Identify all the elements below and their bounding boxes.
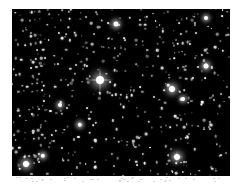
faint-star xyxy=(43,63,44,64)
faint-star xyxy=(34,11,35,12)
faint-star xyxy=(181,42,184,45)
faint-star xyxy=(149,147,151,149)
caption-fragment xyxy=(50,179,52,180)
caption-fragment xyxy=(19,177,21,178)
faint-star xyxy=(13,68,14,69)
caption-fragment xyxy=(82,181,84,182)
faint-star xyxy=(146,66,147,67)
faint-star xyxy=(103,46,104,47)
faint-star xyxy=(90,22,93,25)
faint-star xyxy=(189,41,190,42)
caption-fragment xyxy=(31,178,33,179)
faint-star xyxy=(163,89,165,91)
faint-star xyxy=(60,79,62,81)
faint-star xyxy=(219,155,221,157)
faint-star xyxy=(181,51,183,53)
faint-star xyxy=(12,83,13,85)
faint-star xyxy=(111,153,113,155)
faint-star xyxy=(25,120,27,122)
faint-star xyxy=(142,40,144,42)
faint-star xyxy=(176,20,177,21)
faint-star xyxy=(116,60,118,62)
faint-star xyxy=(223,80,225,82)
faint-star xyxy=(37,129,40,132)
faint-star xyxy=(130,94,133,97)
faint-star xyxy=(18,147,20,149)
faint-star xyxy=(126,144,128,146)
faint-star xyxy=(20,14,21,15)
faint-star xyxy=(105,140,106,141)
faint-star xyxy=(39,41,42,44)
faint-star xyxy=(193,16,195,18)
faint-star xyxy=(189,43,191,45)
diffraction-spike xyxy=(206,62,207,70)
faint-star xyxy=(24,44,26,46)
faint-star xyxy=(124,48,126,50)
faint-star xyxy=(142,74,144,76)
faint-star xyxy=(213,95,214,96)
faint-star xyxy=(135,160,138,163)
faint-star xyxy=(31,67,33,69)
faint-star xyxy=(30,43,32,45)
faint-star xyxy=(191,112,192,113)
faint-star xyxy=(137,115,139,117)
faint-star xyxy=(70,82,73,85)
faint-star xyxy=(135,39,138,42)
faint-star xyxy=(31,91,32,92)
faint-star xyxy=(168,159,171,162)
faint-star xyxy=(125,71,126,72)
faint-star xyxy=(110,23,111,24)
caption-fragment xyxy=(64,178,66,179)
faint-star xyxy=(186,123,188,125)
faint-star xyxy=(216,144,217,145)
faint-star xyxy=(159,24,161,26)
faint-star xyxy=(204,78,206,80)
faint-star xyxy=(187,97,190,100)
faint-star xyxy=(174,52,176,54)
faint-star xyxy=(159,99,160,100)
faint-star xyxy=(176,125,177,126)
faint-star xyxy=(210,124,213,127)
faint-star xyxy=(211,28,213,30)
faint-star xyxy=(36,49,38,51)
faint-star xyxy=(57,63,59,65)
faint-star xyxy=(78,53,79,54)
caption-fragment xyxy=(214,181,216,182)
faint-star xyxy=(76,166,78,168)
faint-star xyxy=(143,44,144,45)
faint-star xyxy=(197,13,198,14)
faint-star xyxy=(90,111,92,113)
faint-star xyxy=(141,90,143,92)
faint-star xyxy=(73,154,74,155)
faint-star xyxy=(106,139,108,141)
caption-fragment xyxy=(132,177,134,178)
faint-star xyxy=(55,26,56,27)
faint-star xyxy=(120,47,122,49)
faint-star xyxy=(58,32,60,34)
faint-star xyxy=(68,39,70,41)
faint-star xyxy=(28,155,30,157)
faint-star xyxy=(41,81,43,83)
faint-star xyxy=(161,38,163,40)
faint-star xyxy=(201,54,203,56)
caption-fragment xyxy=(97,179,99,180)
faint-star xyxy=(37,53,38,54)
bright-star xyxy=(114,22,119,27)
faint-star xyxy=(66,107,68,109)
faint-star xyxy=(223,101,225,103)
faint-star xyxy=(192,77,194,79)
faint-star xyxy=(113,166,115,168)
faint-star xyxy=(75,64,77,66)
faint-star xyxy=(65,79,66,80)
faint-star xyxy=(155,21,157,23)
faint-star xyxy=(43,100,45,102)
faint-star xyxy=(213,46,216,49)
faint-star xyxy=(87,172,88,173)
faint-star xyxy=(135,64,137,66)
faint-star xyxy=(179,91,181,93)
faint-star xyxy=(54,85,57,88)
faint-star xyxy=(37,38,39,40)
faint-star xyxy=(201,104,202,105)
caption-fragment xyxy=(131,178,133,179)
faint-star xyxy=(63,160,64,161)
